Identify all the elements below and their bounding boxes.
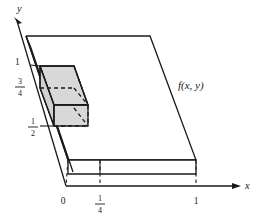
svg-text:2: 2 (31, 129, 35, 138)
y-tick-label-three-quarters: 3 4 (15, 77, 25, 98)
svg-text:3: 3 (18, 77, 22, 86)
y-axis-arrowhead (14, 17, 22, 24)
diagram-svg: y x 1 3 4 1 2 0 1 4 1 f(x, y) (0, 0, 258, 217)
x-axis-arrowhead (232, 183, 241, 189)
y-tick-label-one-half: 1 2 (28, 117, 38, 138)
x-tick-label-one-quarter: 1 4 (95, 194, 105, 215)
y-axis-label: y (16, 3, 22, 14)
svg-text:4: 4 (18, 89, 22, 98)
slab-front-face (68, 160, 196, 174)
x-axis-label: x (244, 180, 250, 191)
x-tick-label-zero: 0 (61, 196, 66, 206)
svg-text:1: 1 (98, 194, 102, 203)
function-label: f(x, y) (178, 79, 204, 92)
figure-canvas: y x 1 3 4 1 2 0 1 4 1 f(x, y) (0, 0, 258, 217)
svg-text:4: 4 (98, 206, 102, 215)
svg-text:1: 1 (31, 117, 35, 126)
block-front-face (54, 105, 88, 126)
x-tick-label-one: 1 (194, 196, 199, 206)
y-tick-label-one: 1 (15, 57, 20, 67)
